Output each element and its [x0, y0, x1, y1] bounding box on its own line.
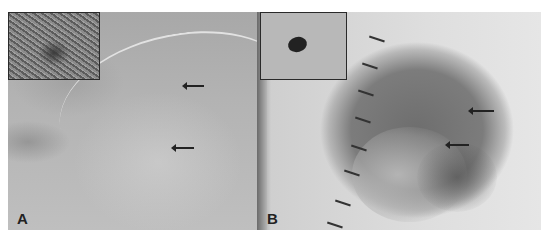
scale-tick	[327, 222, 343, 228]
scale-tick	[355, 117, 371, 123]
arrow-icon	[472, 110, 494, 112]
arrow-icon	[175, 147, 194, 149]
panel-label-b: B	[267, 210, 278, 227]
scale-tick	[369, 36, 385, 42]
inset-a-clinical-image	[8, 12, 100, 80]
mole	[286, 35, 308, 54]
panel-b-dermoscopy: B	[257, 12, 541, 230]
scale-tick	[362, 63, 378, 69]
figure: A B	[8, 12, 541, 230]
inset-b-clinical-image	[260, 12, 347, 80]
panel-a-dermoscopy: A	[8, 12, 257, 230]
arrow-icon	[449, 144, 469, 146]
arrow-icon	[186, 85, 204, 87]
lesion-dark-region	[417, 142, 497, 212]
panel-label-a: A	[17, 210, 28, 227]
scale-tick	[335, 200, 351, 206]
scale-tick	[358, 90, 374, 96]
